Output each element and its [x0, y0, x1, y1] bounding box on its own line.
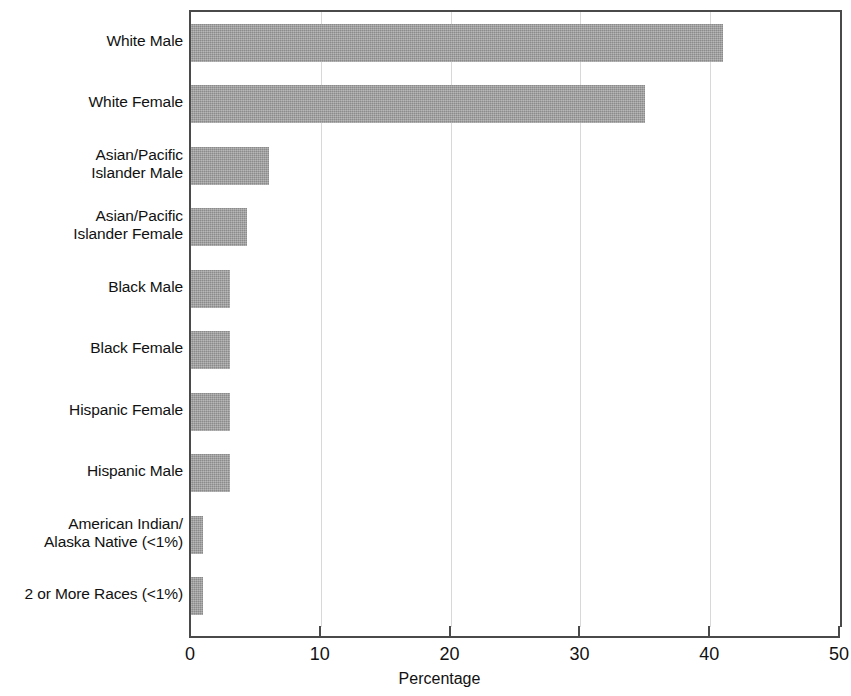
bar-row — [191, 270, 840, 308]
y-axis-category-label-line: American Indian/ — [0, 515, 183, 533]
bar — [191, 147, 269, 185]
plot-area — [189, 10, 842, 627]
y-axis-category-label: White Female — [0, 93, 183, 111]
x-axis-tick-label: 0 — [185, 643, 195, 665]
bar — [191, 516, 203, 554]
y-axis-category-label-line: Hispanic Male — [0, 462, 183, 480]
y-axis-category-label-line: White Female — [0, 93, 183, 111]
x-axis-line — [189, 636, 840, 638]
y-axis-category-label: Asian/PacificIslander Female — [0, 207, 183, 243]
bar-row — [191, 85, 840, 123]
bar-row — [191, 393, 840, 431]
x-axis-tick-label: 20 — [440, 643, 460, 665]
bar — [191, 208, 247, 246]
y-axis-category-label: Hispanic Male — [0, 462, 183, 480]
bar-row — [191, 577, 840, 615]
x-axis-tick — [838, 626, 840, 638]
x-axis-title-text: Percentage — [399, 670, 481, 688]
y-axis-category-label-line: Black Female — [0, 339, 183, 357]
y-axis-category-label-line: Alaska Native (<1%) — [0, 533, 183, 551]
y-axis-category-label-line: Islander Female — [0, 225, 183, 243]
y-axis-category-label: White Male — [0, 32, 183, 50]
bars — [191, 12, 840, 627]
y-axis-category-label-line: White Male — [0, 32, 183, 50]
y-axis-category-labels: White MaleWhite FemaleAsian/PacificIslan… — [0, 10, 183, 625]
x-axis-tick-label: 50 — [829, 643, 849, 665]
x-axis-tick-label: 30 — [569, 643, 589, 665]
x-axis-tick — [449, 626, 451, 638]
bar — [191, 331, 230, 369]
y-axis-category-label-line: Asian/Pacific — [0, 207, 183, 225]
bar — [191, 24, 723, 62]
y-axis-category-label-line: 2 or More Races (<1%) — [0, 585, 183, 603]
bar — [191, 85, 645, 123]
bar-row — [191, 454, 840, 492]
bar-row — [191, 24, 840, 62]
bar-row — [191, 516, 840, 554]
bar-row — [191, 208, 840, 246]
x-axis-tick-label: 40 — [699, 643, 719, 665]
bar — [191, 270, 230, 308]
y-axis-category-label: Asian/PacificIslander Male — [0, 146, 183, 182]
y-axis-category-label: Hispanic Female — [0, 401, 183, 419]
y-axis-category-label: Black Female — [0, 339, 183, 357]
y-axis-category-label: American Indian/Alaska Native (<1%) — [0, 515, 183, 551]
y-axis-category-label-line: Black Male — [0, 278, 183, 296]
bar — [191, 454, 230, 492]
y-axis-category-label: 2 or More Races (<1%) — [0, 585, 183, 603]
x-axis-tick — [189, 626, 191, 638]
x-axis-tick — [578, 626, 580, 638]
y-axis-category-label-line: Asian/Pacific — [0, 146, 183, 164]
bar — [191, 393, 230, 431]
x-axis-title: Percentage — [0, 670, 851, 688]
y-axis-category-label-line: Hispanic Female — [0, 401, 183, 419]
x-axis-tick — [319, 626, 321, 638]
bar-row — [191, 147, 840, 185]
bar — [191, 577, 203, 615]
y-axis-category-label-line: Islander Male — [0, 164, 183, 182]
bar-row — [191, 331, 840, 369]
x-axis-tick-label: 10 — [310, 643, 330, 665]
x-axis-tick — [708, 626, 710, 638]
y-axis-category-label: Black Male — [0, 278, 183, 296]
bar-chart: White MaleWhite FemaleAsian/PacificIslan… — [0, 0, 851, 696]
